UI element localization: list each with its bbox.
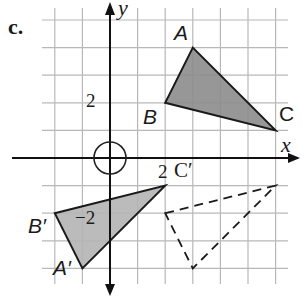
vertex-label-b-prime: B′ xyxy=(28,215,46,236)
coordinate-diagram: c. y x 2 2 −2 A B C A′ B′ C′ xyxy=(0,0,302,298)
y-axis-label: y xyxy=(118,0,128,19)
x-axis-label: x xyxy=(281,134,291,156)
y-axis-arrow-up-icon xyxy=(105,2,115,15)
y-axis-arrow-down-icon xyxy=(105,284,115,296)
vertex-label-b: B xyxy=(143,106,157,127)
vertex-label-a: A xyxy=(174,22,188,43)
vertex-label-a-prime: A′ xyxy=(53,257,71,278)
part-label: c. xyxy=(8,16,23,38)
x-tick-label-2: 2 xyxy=(158,162,168,181)
coordinate-plane xyxy=(0,0,302,298)
vertex-label-c-prime: C′ xyxy=(174,160,193,181)
vertex-label-c: C xyxy=(279,103,294,124)
y-tick-label-2: 2 xyxy=(86,91,96,110)
y-tick-label-neg2: −2 xyxy=(75,208,95,227)
